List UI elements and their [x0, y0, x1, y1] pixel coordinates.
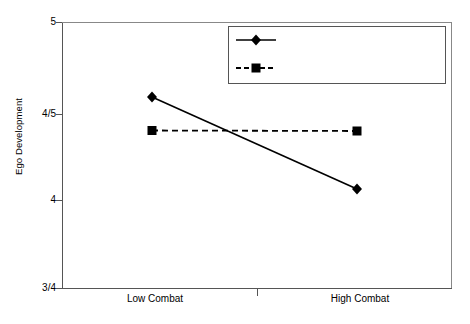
series-high-conscientiousness-point-high-combat	[353, 127, 362, 136]
legend-box	[229, 27, 446, 84]
series-low-conscientiousness-point-low-combat	[147, 92, 157, 103]
plot-area	[0, 0, 470, 324]
series-high-conscientiousness-point-low-combat	[148, 126, 157, 135]
legend-sample-marker-square-icon	[252, 64, 261, 73]
chart-container: Ego Development 5 4/5 4 3/4 Low Combat H…	[0, 0, 470, 324]
series-low-conscientiousness-point-high-combat	[352, 184, 362, 195]
series-low-conscientiousness-line	[152, 97, 357, 189]
series-high-conscientiousness-line	[152, 131, 357, 132]
